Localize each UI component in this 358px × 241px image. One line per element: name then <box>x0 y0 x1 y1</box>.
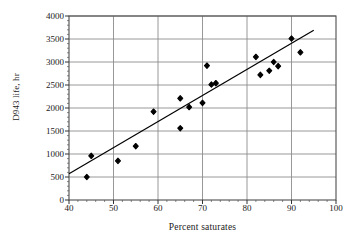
y-tick-label: 3500 <box>46 35 64 44</box>
x-tick-label-wrap: 50 <box>99 203 129 214</box>
x-tick-label: 100 <box>321 203 351 214</box>
data-point-marker <box>200 100 205 105</box>
data-point-marker <box>115 158 120 163</box>
regression-line <box>69 30 314 174</box>
data-point-marker <box>204 63 209 68</box>
data-point-marker <box>276 63 281 68</box>
data-point-marker <box>289 36 294 41</box>
y-tick-label: 1000 <box>46 150 64 159</box>
data-point-marker <box>187 104 192 109</box>
data-point-marker <box>267 68 272 73</box>
y-tick-label-wrap: 3500 <box>26 35 64 44</box>
y-tick-label-wrap: 2500 <box>26 81 64 90</box>
y-tick-label: 500 <box>51 173 65 182</box>
scatter-plot-figure: 05001000150020002500300035004000 4050607… <box>0 0 358 241</box>
x-axis-label: Percent saturates <box>69 222 336 232</box>
data-point-marker <box>178 126 183 131</box>
data-point-marker <box>84 174 89 179</box>
x-tick-label: 40 <box>54 203 84 214</box>
y-tick-label: 4000 <box>46 12 64 21</box>
x-tick-label: 70 <box>188 203 218 214</box>
y-tick-label: 3000 <box>46 58 64 67</box>
y-axis-label: D943 life, hr <box>11 37 21 157</box>
y-tick-label-wrap: 1500 <box>26 127 64 136</box>
x-tick-label: 90 <box>277 203 307 214</box>
x-tick-label: 80 <box>232 203 262 214</box>
data-point-marker <box>271 59 276 64</box>
data-point-marker <box>298 50 303 55</box>
y-tick-label: 2000 <box>46 104 64 113</box>
tick-marks <box>65 16 336 204</box>
x-tick-label-wrap: 80 <box>232 203 262 214</box>
data-point-marker <box>258 72 263 77</box>
y-tick-label: 2500 <box>46 81 64 90</box>
y-tick-label-wrap: 2000 <box>26 104 64 113</box>
y-tick-label-wrap: 3000 <box>26 58 64 67</box>
x-tick-label-wrap: 100 <box>321 203 351 214</box>
data-point-marker <box>133 143 138 148</box>
x-tick-label-wrap: 70 <box>188 203 218 214</box>
x-tick-label-wrap: 90 <box>277 203 307 214</box>
x-tick-label: 60 <box>143 203 173 214</box>
x-tick-label-wrap: 60 <box>143 203 173 214</box>
trend-line <box>69 30 314 174</box>
x-tick-label-wrap: 40 <box>54 203 84 214</box>
data-point-marker <box>178 96 183 101</box>
data-point-marker <box>253 54 258 59</box>
gridlines <box>69 16 336 200</box>
y-tick-label-wrap: 1000 <box>26 150 64 159</box>
y-tick-label-wrap: 500 <box>26 173 64 182</box>
x-tick-label: 50 <box>99 203 129 214</box>
y-tick-label-wrap: 4000 <box>26 12 64 21</box>
data-point-marker <box>151 109 156 114</box>
y-tick-label: 1500 <box>46 127 64 136</box>
